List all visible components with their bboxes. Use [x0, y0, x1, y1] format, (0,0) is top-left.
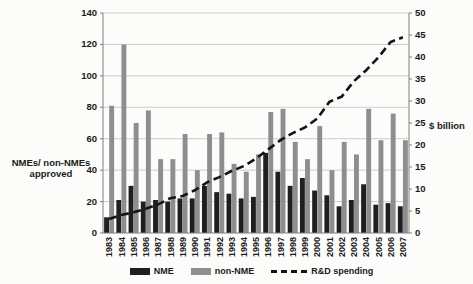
- right-axis-tick-label: 10: [415, 183, 426, 194]
- x-axis-year-label: 2002: [337, 237, 347, 257]
- chart-figure: 1983198419851986198719881989199019911992…: [0, 0, 473, 284]
- x-axis-year-label: 2006: [386, 237, 396, 257]
- x-axis-year-label: 1996: [263, 237, 273, 257]
- x-axis-year-label: 1992: [215, 237, 225, 257]
- non-nme-bar: [317, 126, 322, 233]
- nme-bar: [300, 178, 305, 233]
- legend-item-non-nme: non-NME: [191, 266, 255, 276]
- nme-bar: [227, 194, 232, 233]
- right-axis-tick-label: 15: [415, 161, 426, 172]
- non-nme-bar: [330, 170, 335, 233]
- x-axis-year-label: 1984: [117, 237, 127, 257]
- nme-bar: [288, 186, 293, 233]
- nme-bar: [275, 172, 280, 233]
- x-axis-year-label: 1991: [202, 237, 212, 257]
- legend-swatch-nme: [130, 268, 150, 275]
- non-nme-bar: [378, 140, 383, 233]
- legend-item-rd-spending: R&D spending: [271, 266, 373, 276]
- right-axis-tick-label: 35: [415, 73, 426, 84]
- nme-bar: [386, 203, 391, 233]
- non-nme-bar: [121, 44, 126, 233]
- x-axis-year-label: 1986: [141, 237, 151, 257]
- legend-label-non-nme: non-NME: [215, 266, 255, 276]
- non-nme-bar: [305, 159, 310, 233]
- x-axis-year-label: 1999: [300, 237, 310, 257]
- legend-dash-icon: [271, 270, 307, 273]
- x-axis-year-label: 2003: [349, 237, 359, 257]
- right-axis-tick-label: 45: [415, 29, 426, 40]
- x-axis-year-label: 2005: [374, 237, 384, 257]
- x-axis-year-label: 1993: [227, 237, 237, 257]
- nme-bar: [104, 217, 109, 233]
- nme-bar: [239, 198, 244, 233]
- non-nme-bar: [207, 134, 212, 233]
- left-axis-tick-label: 60: [86, 133, 97, 144]
- non-nme-bar: [134, 123, 139, 233]
- left-axis-tick-label: 120: [81, 38, 97, 49]
- x-axis-year-label: 2001: [325, 237, 335, 257]
- x-axis-year-label: 1983: [104, 237, 114, 257]
- x-axis-year-label: 1989: [178, 237, 188, 257]
- left-axis-tick-label: 80: [86, 101, 97, 112]
- non-nme-bar: [219, 132, 224, 233]
- nme-bar: [202, 186, 207, 233]
- left-axis-tick-label: 20: [86, 196, 97, 207]
- right-axis-tick-label: 0: [415, 227, 420, 238]
- x-axis-year-label: 2007: [398, 237, 408, 257]
- nme-bar: [129, 186, 134, 233]
- nme-bar: [214, 192, 219, 233]
- x-axis-year-label: 1985: [129, 237, 139, 257]
- legend: NME non-NME R&D spending: [30, 266, 473, 276]
- right-axis-tick-label: 5: [415, 205, 421, 216]
- right-axis-tick-label: 25: [415, 117, 426, 128]
- non-nme-bar: [293, 142, 298, 233]
- non-nme-bar: [232, 164, 237, 233]
- x-axis-year-label: 1994: [239, 237, 249, 257]
- nme-bar: [373, 205, 378, 233]
- nme-bar: [251, 197, 256, 233]
- legend-label-nme: NME: [154, 266, 174, 276]
- nme-bar: [263, 153, 268, 233]
- non-nme-bar: [268, 112, 273, 233]
- non-nme-bar: [354, 154, 359, 233]
- left-axis-title-line2: approved: [4, 168, 98, 179]
- non-nme-bar: [256, 154, 261, 233]
- non-nme-bar: [403, 140, 408, 233]
- x-axis-year-label: 2004: [361, 237, 371, 257]
- legend-label-rd-spending: R&D spending: [311, 266, 373, 276]
- right-axis-title: $ billion: [429, 120, 465, 131]
- chart-plot: 1983198419851986198719881989199019911992…: [0, 0, 473, 284]
- non-nme-bar: [195, 170, 200, 233]
- non-nme-bar: [391, 114, 396, 233]
- right-axis-tick-label: 40: [415, 51, 426, 62]
- x-axis-year-label: 2000: [312, 237, 322, 257]
- right-axis-tick-label: 30: [415, 95, 426, 106]
- nme-bar: [178, 198, 183, 233]
- nme-bar: [361, 184, 366, 233]
- non-nme-bar: [170, 159, 175, 233]
- nme-bar: [324, 195, 329, 233]
- nme-bar: [398, 206, 403, 233]
- non-nme-bar: [158, 159, 163, 233]
- nme-bar: [141, 202, 146, 233]
- non-nme-bar: [342, 142, 347, 233]
- x-axis-year-label: 1997: [276, 237, 286, 257]
- left-axis-title-line1: NMEs/ non-NMEs: [4, 157, 98, 168]
- non-nme-bar: [109, 106, 114, 233]
- nme-bar: [312, 191, 317, 233]
- nme-bar: [337, 206, 342, 233]
- non-nme-bar: [366, 109, 371, 233]
- legend-swatch-non-nme: [191, 268, 211, 275]
- nme-bar: [190, 198, 195, 233]
- non-nme-bar: [146, 110, 151, 233]
- left-axis-tick-label: 0: [92, 227, 97, 238]
- non-nme-bar: [183, 134, 188, 233]
- nme-bar: [165, 202, 170, 233]
- legend-item-nme: NME: [130, 266, 174, 276]
- x-axis-year-label: 1990: [190, 237, 200, 257]
- right-axis-tick-label: 20: [415, 139, 426, 150]
- left-axis-title: NMEs/ non-NMEs approved: [4, 157, 98, 179]
- x-axis-year-label: 1998: [288, 237, 298, 257]
- nme-bar: [349, 200, 354, 233]
- x-axis-year-label: 1988: [166, 237, 176, 257]
